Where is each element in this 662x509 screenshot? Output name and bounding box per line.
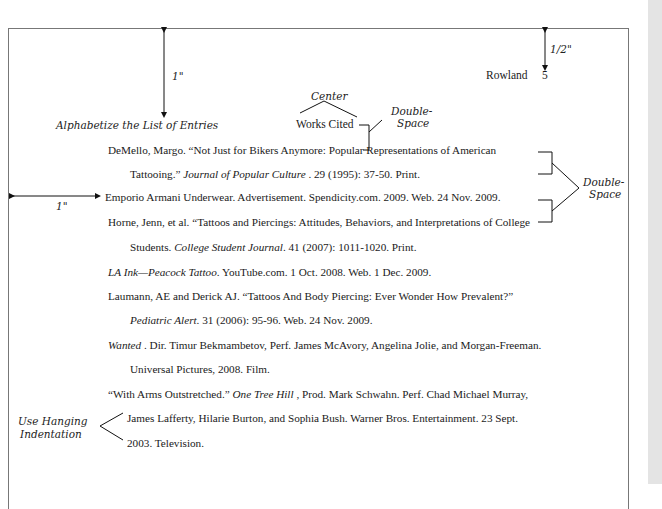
- entry-one-tree-hill-line-1: “With Arms Outstretched.” One Tree Hill …: [108, 387, 528, 401]
- entry-demello-line-2: Tattooing.” Journal of Popular Culture .…: [130, 167, 420, 181]
- entry-laumann-line-1: Laumann, AE and Derick AJ. “Tattoos And …: [108, 289, 513, 303]
- header-margin-label: 1/2": [550, 43, 572, 55]
- entry-demello-line-1: DeMello, Margo. “Not Just for Bikers Any…: [108, 143, 496, 157]
- hanging-indent-label-2: Indentation: [20, 428, 82, 440]
- double-space-title-label-2: Space: [397, 117, 429, 129]
- entry-wanted-line-1: Wanted . Dir. Timur Bekmambetov, Perf. J…: [108, 338, 541, 352]
- running-head: Rowland: [486, 69, 528, 81]
- entry-wanted-line-2: Universal Pictures, 2008. Film.: [130, 362, 270, 376]
- page-number: 5: [542, 69, 548, 81]
- entry-horne-line-2: Students. College Student Journal. 41 (2…: [130, 240, 416, 254]
- top-margin-label: 1": [172, 70, 184, 82]
- center-label: Center: [311, 90, 347, 102]
- entry-horne-line-1: Horne, Jenn, et al. “Tattoos and Piercin…: [108, 215, 530, 229]
- entry-emporio-armani: Emporio Armani Underwear. Advertisement.…: [105, 190, 500, 204]
- hanging-indent-label-1: Use Hanging: [18, 415, 88, 427]
- double-space-entries-label-1: Double-: [583, 176, 624, 188]
- alphabetize-label: Alphabetize the List of Entries: [56, 119, 218, 131]
- entry-la-ink: LA Ink—Peacock Tattoo. YouTube.com. 1 Oc…: [108, 265, 431, 279]
- left-margin-label: 1": [56, 200, 68, 212]
- entry-one-tree-hill-line-2: James Lafferty, Hilarie Burton, and Soph…: [127, 411, 518, 425]
- entry-laumann-line-2: Pediatric Alert. 31 (2006): 95-96. Web. …: [130, 313, 373, 327]
- double-space-entries-label-2: Space: [589, 188, 621, 200]
- double-space-title-label-1: Double-: [391, 105, 432, 117]
- works-cited-title: Works Cited: [296, 118, 354, 130]
- entry-one-tree-hill-line-3: 2003. Television.: [127, 436, 204, 450]
